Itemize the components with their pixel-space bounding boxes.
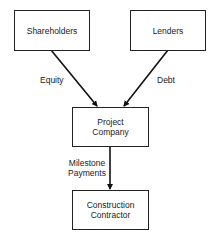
node-shareholders: Shareholders — [14, 10, 90, 51]
node-lenders: Lenders — [130, 10, 206, 51]
node-label-line1: Project — [97, 117, 123, 127]
edge-label-milestone-payments: Milestone Payments — [67, 158, 107, 178]
edge-label-equity: Equity — [40, 75, 64, 85]
node-label: Shareholders — [27, 26, 78, 36]
edge-label-debt: Debt — [157, 75, 175, 85]
edge-label-line2: Payments — [67, 168, 107, 178]
edge-label-line1: Milestone — [67, 158, 107, 168]
node-construction-contractor: Construction Contractor — [72, 190, 149, 230]
node-label-line2: Company — [92, 127, 128, 137]
node-project-company: Project Company — [72, 107, 149, 147]
node-label: Lenders — [153, 26, 184, 36]
node-label-line1: Construction — [87, 200, 135, 210]
node-label-line2: Contractor — [91, 210, 131, 220]
